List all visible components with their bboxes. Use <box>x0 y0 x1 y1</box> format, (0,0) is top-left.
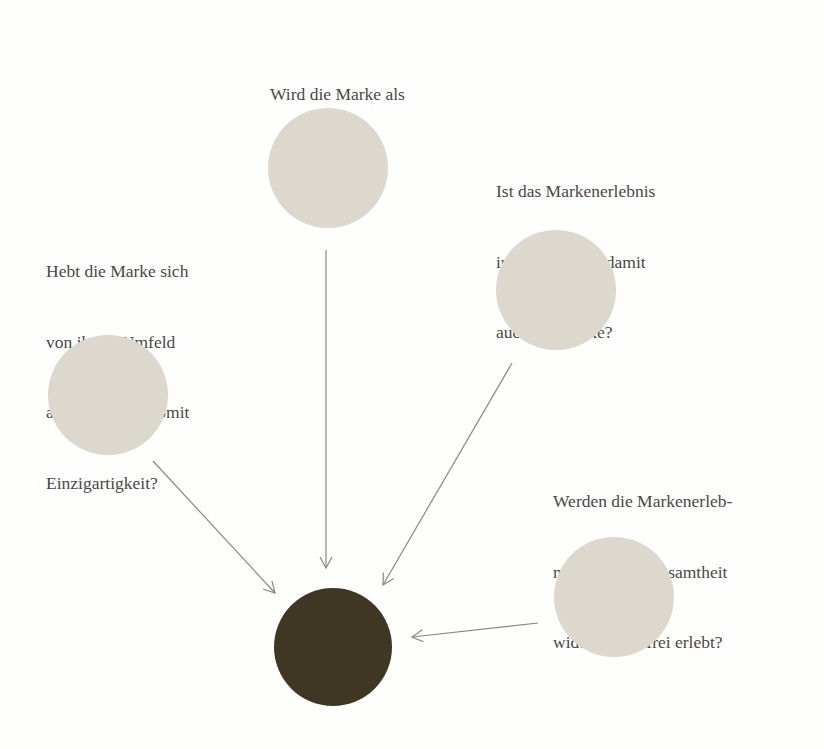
circle-widerspruchsfreiheit <box>554 537 674 657</box>
arrow-widerspruchsfreiheit <box>412 623 538 637</box>
circle-nuetzlichkeit <box>268 108 388 228</box>
label-line: Werden die Markenerleb- <box>553 490 732 514</box>
circle-einzigartigkeit <box>48 335 168 455</box>
label-line: Hebt die Marke sich <box>46 260 189 284</box>
circle-target-marke <box>274 588 392 706</box>
brand-experience-diagram: Wird die Marke als nützlich erlebt? Ist … <box>0 0 824 749</box>
arrow-interesse <box>383 363 512 585</box>
label-line: Einzigartigkeit? <box>46 472 189 496</box>
circle-interesse <box>496 230 616 350</box>
label-line: Ist das Markenerlebnis <box>496 180 655 204</box>
label-line: Wird die Marke als <box>270 83 405 107</box>
